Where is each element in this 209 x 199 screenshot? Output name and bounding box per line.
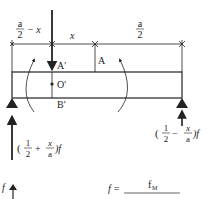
f-axis-label: f [2,182,6,193]
frac-num: 1 [164,123,169,133]
frac-num: 1 [26,138,31,148]
label-a-prime: A' [57,60,66,71]
left-support-icon [6,98,18,108]
frac-den: 2 [164,134,169,144]
label-b-prime: B' [57,99,66,110]
dim-left-den: 2 [18,29,23,40]
moment-arrow-left [26,60,34,112]
paren-close: )f [54,143,62,155]
dim-label-right: a 2 [136,18,144,40]
paren-close: )f [192,128,200,140]
right-support-icon [176,98,188,108]
right-reaction-label: ( 1 2 − x a )f [155,123,200,144]
beam [12,72,182,98]
dim-right-den: 2 [138,29,143,40]
beam-diagram: a 2 − x x a 2 A' A O' B' ( 1 2 + x a )f … [0,0,209,199]
label-o-prime: O' [57,79,66,90]
moment-arrow-right [118,60,128,112]
formula-lhs: f = [108,183,120,194]
center-dot [50,82,53,85]
dim-right-num: a [138,18,143,29]
dim-left-num: a [18,18,23,29]
x-den: a [48,149,52,159]
label-a: A [98,55,106,66]
operator: − [172,128,178,139]
dim-offset-x: x [69,30,75,41]
operator: + [35,143,41,154]
x-den: a [186,134,190,144]
left-reaction-label: ( 1 2 + x a )f [17,138,62,159]
paren-open: ( [155,127,159,140]
frac-den: 2 [26,149,31,159]
dim-left-suffix: − x [27,24,41,35]
paren-open: ( [17,142,21,155]
x-num: x [185,123,190,133]
x-num: x [47,138,52,148]
dim-label-left: a 2 − x [16,18,41,40]
formula-num-sub: M [152,185,158,191]
